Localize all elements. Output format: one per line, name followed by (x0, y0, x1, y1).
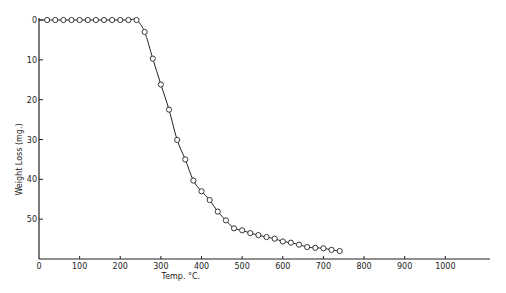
data-point (305, 244, 310, 249)
data-point (207, 197, 212, 202)
data-point (264, 234, 269, 239)
data-point (337, 248, 342, 253)
data-point (175, 137, 180, 142)
data-point (150, 56, 155, 61)
data-point (215, 209, 220, 214)
y-tick-label: 30 (27, 136, 37, 145)
data-point (231, 226, 236, 231)
data-point (183, 157, 188, 162)
data-point (61, 17, 66, 22)
x-tick-label: 800 (356, 262, 371, 271)
data-point (93, 17, 98, 22)
data-point (313, 245, 318, 250)
data-point (53, 17, 58, 22)
x-tick-label: 600 (275, 262, 290, 271)
data-point (134, 17, 139, 22)
data-point (101, 17, 106, 22)
y-axis-ticks: 01020304050 (27, 16, 43, 224)
y-tick-label: 0 (32, 16, 37, 25)
data-point (248, 231, 253, 236)
x-tick-label: 300 (153, 262, 168, 271)
y-axis-title: Weight Loss (mg.) (15, 123, 24, 195)
data-point (288, 240, 293, 245)
x-tick-label: 1000 (435, 262, 455, 271)
data-point (256, 233, 261, 238)
y-tick-label: 10 (27, 56, 37, 65)
series-group (39, 17, 342, 253)
data-point (321, 246, 326, 251)
data-point (191, 178, 196, 183)
series-line (47, 19, 340, 251)
x-tick-label: 400 (194, 262, 209, 271)
data-point (199, 189, 204, 194)
axes (39, 18, 490, 259)
data-point (126, 17, 131, 22)
data-point (296, 242, 301, 247)
data-point (240, 228, 245, 233)
data-point (45, 17, 50, 22)
data-point (118, 17, 123, 22)
y-tick-label: 40 (27, 175, 37, 184)
x-tick-label: 0 (36, 262, 41, 271)
y-tick-label: 20 (27, 96, 37, 105)
tga-chart: 01002003004005006007008009001000 0102030… (0, 0, 506, 293)
x-axis-title: Temp. °C. (161, 272, 201, 281)
data-point (69, 17, 74, 22)
data-point (142, 29, 147, 34)
x-tick-label: 700 (316, 262, 331, 271)
data-point (166, 107, 171, 112)
data-point (329, 247, 334, 252)
x-tick-label: 500 (235, 262, 250, 271)
data-point (280, 239, 285, 244)
data-point (158, 82, 163, 87)
data-point (223, 218, 228, 223)
x-tick-label: 200 (113, 262, 128, 271)
x-tick-label: 900 (397, 262, 412, 271)
data-point (272, 236, 277, 241)
data-point (85, 17, 90, 22)
data-point (110, 17, 115, 22)
y-tick-label: 50 (27, 215, 37, 224)
x-axis-ticks: 01002003004005006007008009001000 (36, 256, 455, 271)
data-point (77, 17, 82, 22)
x-tick-label: 100 (72, 262, 87, 271)
